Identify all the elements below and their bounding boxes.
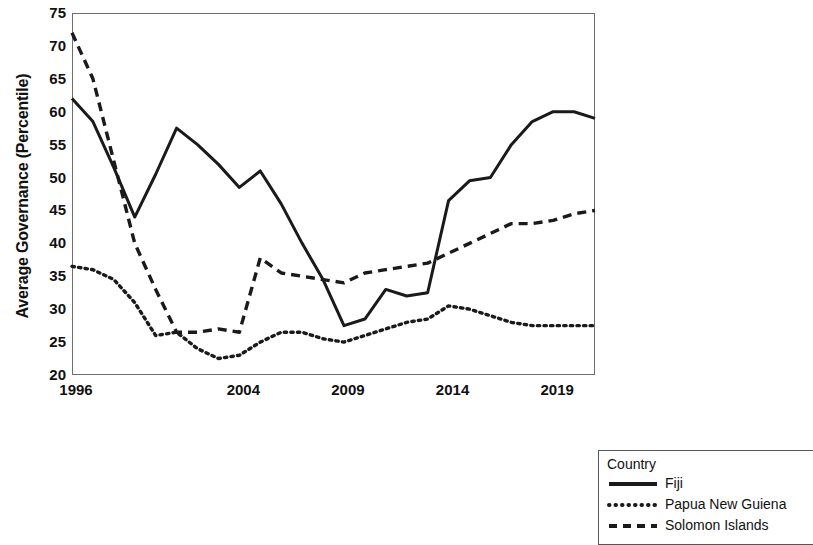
y-tick-label: 50 [32,170,66,185]
legend-item-label: Solomon Islands [665,518,769,533]
y-tick-label: 55 [32,137,66,152]
y-tick-label: 60 [32,104,66,119]
series-line [72,99,595,326]
y-tick-label: 35 [32,268,66,283]
y-tick-label: 25 [32,334,66,349]
y-tick-label: 45 [32,202,66,217]
y-axis-tick-labels: 757065605550454035302520 [30,0,66,539]
y-tick-label: 75 [32,5,66,20]
x-tick-label: 2014 [436,381,469,398]
legend-box: Country FijiPapua New GuienaSolomon Isla… [598,450,813,545]
legend-line-sample [607,498,659,512]
legend-line-sample [607,519,659,533]
y-tick-label: 65 [32,71,66,86]
legend-title: Country [607,456,813,472]
legend-item[interactable]: Solomon Islands [607,515,813,536]
y-tick-label: 30 [32,301,66,316]
x-tick-label: 1996 [59,381,92,398]
legend-item-label: Fiji [665,476,683,491]
y-tick-label: 70 [32,38,66,53]
y-tick-label: 40 [32,235,66,250]
legend-item[interactable]: Fiji [607,473,813,494]
x-tick-label: 2009 [331,381,364,398]
plot-lines [72,13,595,375]
legend-line-sample [607,477,659,491]
legend-item-label: Papua New Guiena [665,497,786,512]
x-tick-label: 2004 [227,381,260,398]
x-tick-label: 2019 [540,381,573,398]
legend-item[interactable]: Papua New Guiena [607,494,813,515]
y-tick-label: 20 [32,367,66,382]
